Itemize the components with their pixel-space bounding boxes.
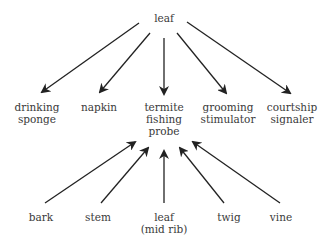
label-line: fishing <box>144 113 183 125</box>
arrow-vine-to-probe <box>193 142 280 203</box>
label-line: leaf <box>141 211 188 223</box>
label-line: probe <box>144 125 183 137</box>
node-termite-fishing-probe: termite fishing probe <box>144 101 183 137</box>
node-leaf-source: leaf <box>154 12 174 24</box>
arrow-leaf-to-drinking-sponge <box>42 23 139 92</box>
node-grooming-stimulator: grooming stimulator <box>201 101 256 125</box>
node-napkin: napkin <box>81 101 117 113</box>
node-stem: stem <box>85 211 111 223</box>
arrow-twig-to-probe <box>180 148 224 203</box>
node-leaf-midrib: leaf (mid rib) <box>141 211 188 235</box>
label-line: stem <box>85 211 111 223</box>
node-drinking-sponge: drinking sponge <box>14 101 59 125</box>
label: leaf <box>154 12 174 24</box>
label-line: signaler <box>267 113 317 125</box>
arrow-bark-to-probe <box>45 142 135 203</box>
node-twig: twig <box>217 211 240 223</box>
label-line: (mid rib) <box>141 223 188 235</box>
label-line: termite <box>144 101 183 113</box>
label-line: courtship <box>267 101 317 113</box>
node-bark: bark <box>29 211 53 223</box>
label-line: bark <box>29 211 53 223</box>
node-courtship-signaler: courtship signaler <box>267 101 317 125</box>
label-line: stimulator <box>201 113 256 125</box>
label-line: drinking <box>14 101 59 113</box>
label-line: grooming <box>201 101 256 113</box>
arrow-stem-to-probe <box>101 148 148 203</box>
label-line: napkin <box>81 101 117 113</box>
label-line: sponge <box>14 113 59 125</box>
arrow-leaf-to-grooming-stimulator <box>177 33 226 93</box>
arrow-leaf-to-napkin <box>100 33 150 92</box>
node-vine: vine <box>270 211 292 223</box>
arrow-leaf-to-courtship-signaler <box>187 22 290 93</box>
label-line: vine <box>270 211 292 223</box>
label-line: twig <box>217 211 240 223</box>
